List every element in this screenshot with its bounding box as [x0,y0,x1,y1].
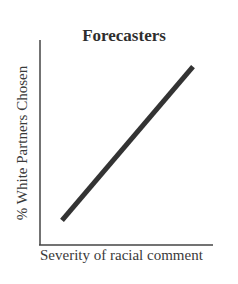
data-line [62,67,193,221]
chart-plot [0,0,238,284]
